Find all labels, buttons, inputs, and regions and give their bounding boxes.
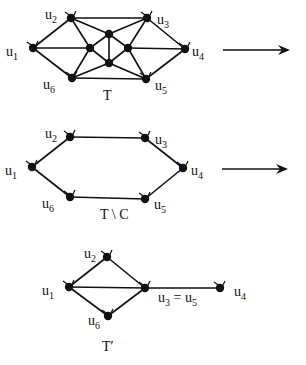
graph-vertex-u4	[181, 45, 189, 53]
graph-vertex	[86, 44, 94, 52]
panel-caption: T \ C	[100, 207, 129, 222]
graph-vertex-u1	[29, 44, 37, 52]
graph-vertex-u3	[143, 14, 151, 22]
vertex-label-u1: u1	[42, 283, 54, 301]
vertex-label-u4: u4	[191, 163, 203, 181]
graph-diagram-canvas: u1u2u3u4u5u6Tu1u2u3u4u5u6T \ Cu1u2u3 = u…	[0, 0, 306, 365]
graph-panel-T: u1u2u3u4u5u6T	[6, 7, 204, 103]
graph-vertex-u6	[68, 74, 76, 82]
graph-edge	[70, 137, 145, 138]
graph-vertex	[124, 44, 132, 52]
graph-vertex-u6	[66, 193, 74, 201]
graph-edge	[32, 137, 70, 167]
right-arrow-icon	[223, 45, 290, 55]
graph-panels: u1u2u3u4u5u6Tu1u2u3u4u5u6T \ Cu1u2u3 = u…	[5, 7, 246, 354]
graph-edge	[72, 63, 109, 78]
transformation-arrows	[222, 45, 290, 174]
graph-edge	[146, 49, 185, 79]
graph-vertex-u5	[142, 75, 150, 83]
graph-panel-T-minus-C: u1u2u3u4u5u6T \ C	[5, 126, 203, 222]
vertex-label-u1: u1	[5, 163, 17, 181]
graph-panel-T-prime: u1u2u3 = u5u4u6T′	[42, 246, 246, 354]
vertex-label-u1: u1	[6, 44, 18, 62]
graph-edge	[107, 257, 145, 288]
vertex-label-u5: u5	[154, 197, 166, 215]
vertex-label-u2: u2	[84, 246, 96, 264]
vertex-label-u2: u2	[45, 7, 57, 25]
graph-edge	[69, 287, 145, 288]
vertex-label-u6: u6	[43, 77, 55, 95]
graph-vertex-u5	[141, 195, 149, 203]
right-arrow-icon	[222, 164, 288, 174]
graph-edge	[108, 288, 145, 316]
vertex-label-u2: u2	[45, 126, 57, 144]
graph-vertex-u2	[103, 253, 111, 261]
graph-vertex-u35	[141, 284, 149, 292]
graph-vertex-u2	[66, 133, 74, 141]
graph-vertex-u3	[141, 134, 149, 142]
graph-vertex	[105, 30, 113, 38]
graph-edge	[72, 78, 146, 79]
graph-edge	[70, 197, 145, 199]
vertex-label-u4: u4	[234, 284, 246, 302]
graph-edge	[128, 48, 185, 49]
vertex-label-u6: u6	[88, 313, 100, 331]
graph-edge	[33, 48, 72, 78]
graph-vertex-u1	[28, 163, 36, 171]
panel-caption: T′	[102, 339, 114, 354]
vertex-label-u6: u6	[42, 196, 54, 214]
graph-vertex-u4	[179, 164, 187, 172]
panel-caption: T	[103, 88, 112, 103]
graph-vertex-u1	[65, 283, 73, 291]
vertex-label-u35: u3 = u5	[158, 290, 197, 308]
graph-edge	[32, 167, 70, 197]
graph-edge	[69, 287, 108, 316]
graph-vertex-u2	[67, 14, 75, 22]
graph-edge	[69, 257, 107, 287]
graph-edge	[145, 168, 183, 199]
graph-vertex-u6	[104, 312, 112, 320]
graph-vertex	[105, 59, 113, 67]
graph-vertex-u4	[216, 284, 224, 292]
vertex-label-u5: u5	[155, 78, 167, 96]
vertex-label-u4: u4	[192, 44, 204, 62]
